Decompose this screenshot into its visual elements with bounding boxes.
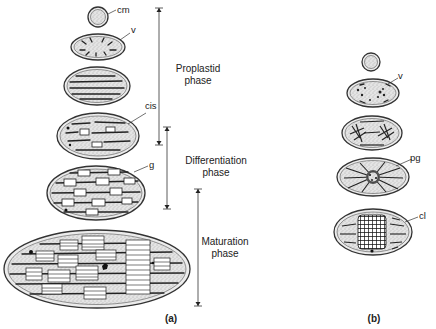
phase-bar-maturation: Maturation phase (194, 189, 249, 306)
etioplast-prolamellar-forming (342, 116, 402, 150)
phase-label-proplastid-1: Proplastid (176, 63, 220, 74)
lamellae-stage (64, 67, 130, 105)
cisternae-stage: cis (57, 100, 157, 159)
label-cl: cl (419, 210, 426, 221)
etioplast-proplastid-round (362, 53, 380, 71)
label-g: g (149, 159, 154, 170)
etioplast-vesicle-stage: v (347, 70, 403, 107)
panel-label-b: (b) (368, 313, 381, 324)
panel-a: cm v (4, 4, 249, 324)
phase-bar-differentiation: Differentiation phase (163, 127, 247, 209)
etioplast-crystalline-lattice: cl (334, 209, 426, 255)
phase-bar-proplastid: Proplastid phase (155, 8, 220, 145)
vesicle-stage: v (71, 24, 136, 60)
panel-label-a: (a) (165, 313, 177, 324)
proplastid-round: cm (88, 4, 130, 27)
etioplast-prolamellar-body: pg (337, 152, 421, 196)
grana-stage: g (47, 159, 154, 220)
mature-chloroplast (4, 230, 190, 308)
label-v: v (131, 24, 136, 35)
phase-label-maturation-1: Maturation (201, 236, 248, 247)
label-cm: cm (117, 4, 130, 15)
plastid-development-diagram: cm v (0, 0, 436, 329)
phase-label-differentiation-2: phase (202, 167, 230, 178)
panel-b: v (334, 53, 426, 324)
label-v-b: v (398, 70, 403, 81)
phase-label-proplastid-2: phase (184, 75, 212, 86)
label-pg: pg (410, 152, 421, 163)
label-cis: cis (145, 100, 157, 111)
phase-label-maturation-2: phase (211, 248, 239, 259)
phase-label-differentiation-1: Differentiation (185, 155, 247, 166)
